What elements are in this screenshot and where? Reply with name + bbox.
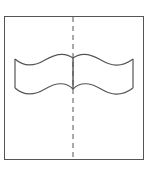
- diagram-figure: [0, 0, 151, 178]
